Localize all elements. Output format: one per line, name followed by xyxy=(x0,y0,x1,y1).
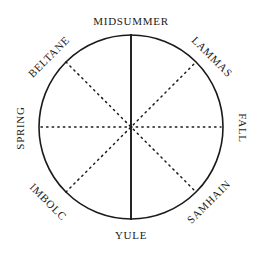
wheel-of-the-year-diagram: MIDSUMMER LAMMAS FALL SAMHAIN YULE IMBOL… xyxy=(0,0,255,258)
label-fall: FALL xyxy=(237,113,248,142)
label-spring: SPRING xyxy=(15,106,26,149)
label-midsummer: MIDSUMMER xyxy=(93,16,168,27)
label-yule: YULE xyxy=(115,230,147,241)
wheel-graphic xyxy=(0,0,255,258)
